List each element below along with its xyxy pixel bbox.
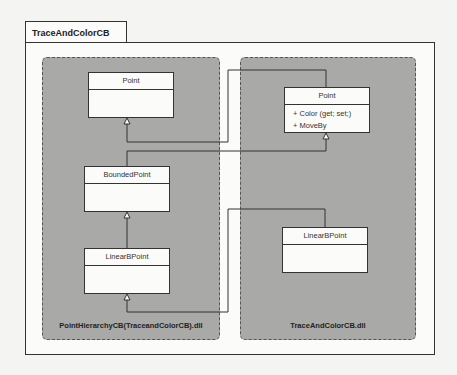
class-name: Point [89, 73, 173, 90]
class-linearbpoint-derived[interactable]: LinearBPoint [282, 227, 368, 273]
package-tab: TraceAndColorCB [25, 21, 127, 42]
class-name: BoundedPoint [85, 167, 169, 184]
class-point-base[interactable]: Point [88, 72, 174, 118]
class-name: LinearBPoint [85, 249, 169, 266]
assembly-label: PointHierarchyCB(TraceandColorCB).dll [43, 321, 219, 330]
class-members: + Color (get; set;) + MoveBy [285, 105, 369, 132]
class-linearbpoint-base[interactable]: LinearBPoint [84, 248, 170, 294]
class-name: LinearBPoint [283, 228, 367, 245]
member-moveby: + MoveBy [293, 120, 369, 132]
package-name: TraceAndColorCB [32, 28, 110, 38]
class-boundedpoint[interactable]: BoundedPoint [84, 166, 170, 212]
class-name: Point [285, 88, 369, 105]
class-point-derived[interactable]: Point + Color (get; set;) + MoveBy [284, 87, 370, 133]
member-color: + Color (get; set;) [293, 108, 369, 120]
assembly-label: TraceAndColorCB.dll [241, 321, 415, 330]
